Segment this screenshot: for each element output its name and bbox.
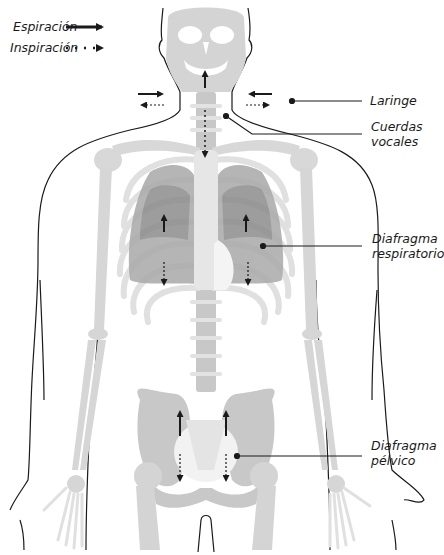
label-respiratory-diaphragm: Diafragma respiratorio — [372, 231, 444, 261]
legend-expiration-label: Espiración — [13, 19, 78, 34]
label-vocal-cords-line2: vocales — [371, 134, 423, 149]
label-respiratory-diaphragm-line1: Diafragma — [372, 231, 444, 246]
legend-inspiration-label: Inspiración — [10, 40, 78, 55]
label-respiratory-diaphragm-line2: respiratorio — [372, 246, 444, 261]
label-pelvic-diaphragm-line1: Diafragma — [371, 438, 437, 453]
label-larynx: Laringe — [370, 93, 417, 108]
label-pelvic-diaphragm-line2: pélvico — [371, 453, 437, 468]
pelvis — [134, 389, 278, 550]
label-vocal-cords: Cuerdas vocales — [371, 119, 423, 149]
label-vocal-cords-line1: Cuerdas — [371, 119, 423, 134]
label-pelvic-diaphragm: Diafragma pélvico — [371, 438, 437, 468]
